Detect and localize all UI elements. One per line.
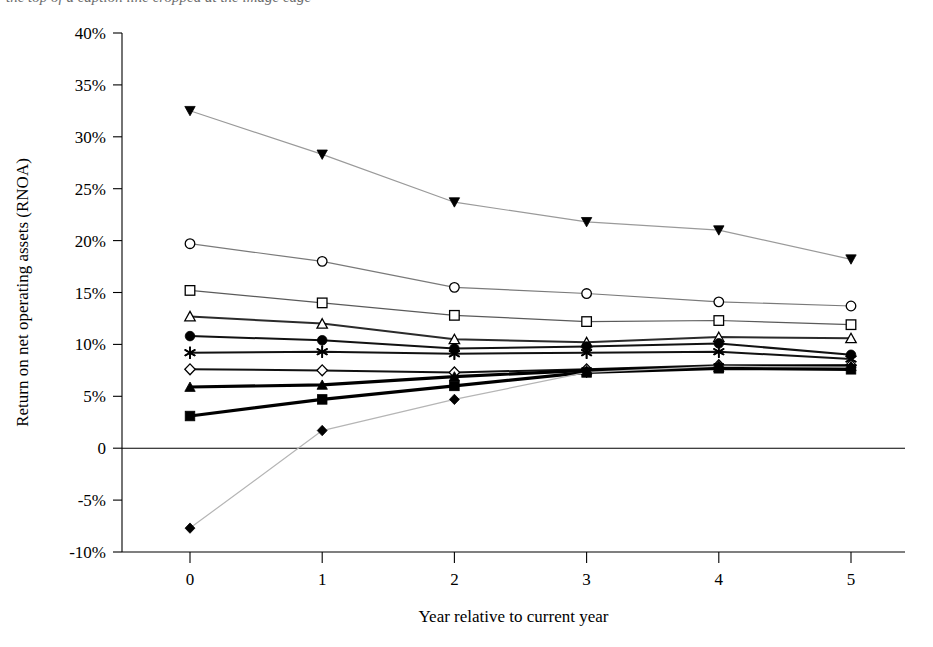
series-portfolio-3 xyxy=(185,286,856,330)
series-line-portfolio-6 xyxy=(190,352,851,359)
y-tick-label: 30% xyxy=(75,128,106,147)
series-line-portfolio-10 xyxy=(190,366,851,528)
y-axis-title: Return on net operating assets (RNOA) xyxy=(13,158,32,427)
marker-filled-diamond xyxy=(185,523,195,533)
x-tick-label: 5 xyxy=(847,570,856,589)
y-tick-label: 15% xyxy=(75,284,106,303)
x-tick-label: 2 xyxy=(450,570,459,589)
y-tick-label: 40% xyxy=(75,24,106,43)
marker-filled-circle xyxy=(317,335,327,345)
rnoa-line-chart: 40%35%30%25%20%15%10%5%0-5%-10%012345Yea… xyxy=(0,0,933,647)
marker-open-diamond xyxy=(185,364,195,375)
marker-open-square xyxy=(582,317,592,327)
marker-filled-square xyxy=(450,381,460,391)
marker-open-square xyxy=(450,311,460,321)
y-tick-label: -10% xyxy=(69,543,106,562)
marker-filled-down-triangle xyxy=(317,150,327,159)
marker-open-circle xyxy=(846,301,856,311)
x-tick-label: 4 xyxy=(715,570,724,589)
y-tick-label: 5% xyxy=(83,387,106,406)
marker-open-circle xyxy=(582,289,592,299)
series-line-portfolio-1 xyxy=(190,111,851,259)
y-tick-label: 25% xyxy=(75,180,106,199)
y-tick-label: -5% xyxy=(78,491,106,510)
marker-open-square xyxy=(185,286,195,296)
series-portfolio-4 xyxy=(185,311,856,346)
series-layer xyxy=(185,106,856,533)
series-portfolio-8 xyxy=(185,361,856,391)
y-tick-label: 35% xyxy=(75,76,106,95)
marker-filled-diamond xyxy=(317,425,327,435)
marker-open-circle xyxy=(450,283,460,293)
figure-container: the top of a caption line cropped at the… xyxy=(0,0,933,647)
series-portfolio-1 xyxy=(185,106,856,264)
series-portfolio-6 xyxy=(185,346,855,364)
series-line-portfolio-2 xyxy=(190,244,851,306)
marker-filled-down-triangle xyxy=(846,255,856,264)
axis-layer xyxy=(113,33,905,563)
marker-open-diamond xyxy=(317,365,327,376)
x-tick-label: 0 xyxy=(186,570,195,589)
marker-open-circle xyxy=(317,257,327,267)
series-line-portfolio-9 xyxy=(190,368,851,416)
series-line-portfolio-3 xyxy=(190,290,851,324)
marker-open-circle xyxy=(185,239,195,249)
y-tick-label: 0 xyxy=(98,439,107,458)
marker-filled-square xyxy=(185,411,195,421)
y-tick-label: 10% xyxy=(75,335,106,354)
marker-open-square xyxy=(846,320,856,330)
marker-filled-circle xyxy=(185,331,195,341)
marker-filled-diamond xyxy=(449,394,459,404)
marker-open-square xyxy=(714,316,724,326)
marker-filled-square xyxy=(317,395,327,405)
marker-filled-down-triangle xyxy=(185,106,195,115)
x-axis-title: Year relative to current year xyxy=(419,607,609,626)
marker-open-square xyxy=(317,298,327,308)
x-tick-label: 3 xyxy=(582,570,591,589)
label-layer: 40%35%30%25%20%15%10%5%0-5%-10%012345Yea… xyxy=(13,24,855,626)
series-portfolio-5 xyxy=(185,331,856,359)
marker-open-circle xyxy=(714,297,724,307)
y-tick-label: 20% xyxy=(75,232,106,251)
x-tick-label: 1 xyxy=(318,570,327,589)
